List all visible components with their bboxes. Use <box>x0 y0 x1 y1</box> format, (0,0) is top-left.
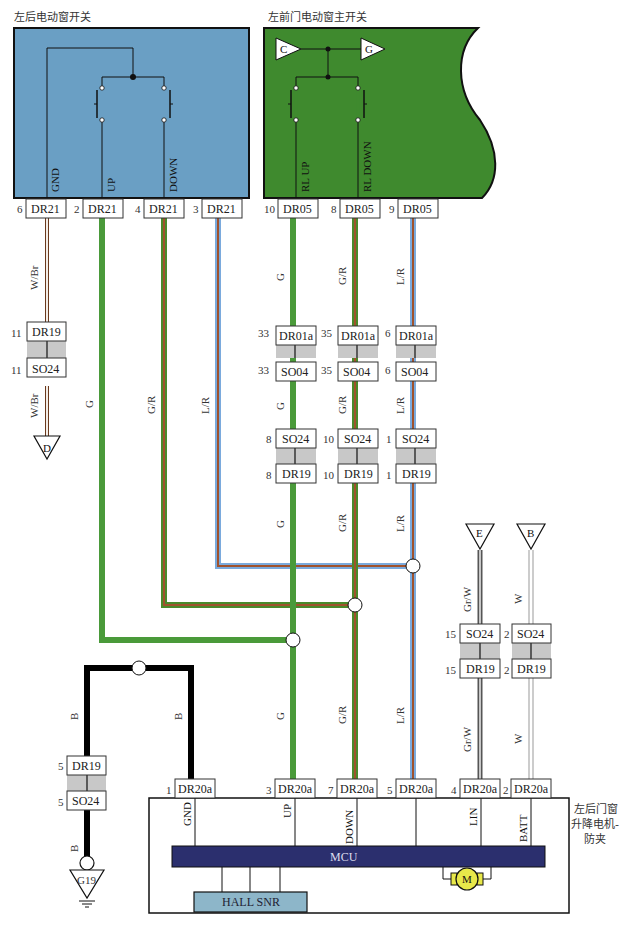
ref-d: D <box>34 436 60 459</box>
wire-lr-left <box>218 218 413 566</box>
svg-text:35: 35 <box>321 364 333 376</box>
ref-c: C <box>280 43 287 55</box>
switch-contact-icon <box>100 118 104 122</box>
svg-text:DR01a: DR01a <box>341 329 376 343</box>
svg-text:11: 11 <box>11 364 22 376</box>
svg-text:8: 8 <box>331 203 337 215</box>
svg-text:DR19: DR19 <box>466 662 495 676</box>
svg-text:DR21: DR21 <box>207 202 236 216</box>
svg-text:DR20a: DR20a <box>399 782 434 796</box>
svg-text:2: 2 <box>503 784 509 796</box>
wire-label: W <box>512 733 524 744</box>
svg-text:DR21: DR21 <box>88 202 117 216</box>
left-switch-connectors: 6 DR21 2 DR21 4 DR21 3 DR21 <box>17 199 242 218</box>
wire-label: W/Br <box>28 393 40 418</box>
signal-down: DOWN <box>343 810 355 844</box>
svg-text:35: 35 <box>321 327 333 339</box>
svg-text:SO24: SO24 <box>282 432 309 446</box>
wire-g-left-up <box>102 218 293 640</box>
splice-node-icon <box>348 598 362 612</box>
motor-module-title-2: 升降电机- <box>571 817 619 831</box>
main-switch-title: 左前门电动窗主开关 <box>268 10 367 24</box>
svg-text:SO24: SO24 <box>466 627 493 641</box>
signal-rl-down: RL DOWN <box>361 141 373 192</box>
inline-connector-e: 15 SO24 15 DR19 <box>445 624 500 678</box>
signal-rl-up: RL UP <box>299 162 311 192</box>
svg-text:3: 3 <box>193 203 199 215</box>
inline-connector-ground: 5 DR19 5 SO24 <box>58 756 106 810</box>
mcu-block <box>172 846 545 867</box>
inline-connector-so24-rlup: 8 SO24 8 DR19 <box>266 429 316 483</box>
hall-sensor-label: HALL SNR <box>222 895 280 909</box>
signal-lin: LIN <box>467 808 479 826</box>
wire-label: L/R <box>394 514 406 532</box>
svg-text:33: 33 <box>258 364 270 376</box>
mcu-label: MCU <box>330 850 358 864</box>
signal-down: DOWN <box>167 158 179 192</box>
svg-text:DR05: DR05 <box>403 202 432 216</box>
svg-text:5: 5 <box>58 796 64 808</box>
switch-contact-icon <box>162 118 166 122</box>
svg-text:SO24: SO24 <box>32 362 59 376</box>
svg-text:DR20a: DR20a <box>514 782 549 796</box>
wire-label: G/R <box>336 395 348 414</box>
svg-text:4: 4 <box>451 784 457 796</box>
ref-g: G <box>365 43 373 55</box>
svg-text:10: 10 <box>323 433 335 445</box>
svg-text:SO04: SO04 <box>343 365 370 379</box>
svg-text:10: 10 <box>323 469 335 481</box>
wire-label: G <box>274 712 286 720</box>
signal-gnd: GND <box>49 168 61 192</box>
main-switch-connectors: 10 DR05 8 DR05 9 DR05 <box>264 199 438 218</box>
wire-label: G <box>83 400 95 408</box>
svg-text:SO04: SO04 <box>401 365 428 379</box>
svg-text:DR05: DR05 <box>283 202 312 216</box>
wire-label: W <box>512 593 524 604</box>
signal-batt: BATT <box>517 814 529 842</box>
svg-text:6: 6 <box>385 364 391 376</box>
svg-text:SO24: SO24 <box>402 432 429 446</box>
inline-connector-dr01a-rldn: 35 DR01a 35 SO04 <box>321 326 378 381</box>
ref-b: B <box>517 524 545 549</box>
splice-node-icon <box>286 633 300 647</box>
wire-label: Gr/W <box>461 726 473 752</box>
signal-up: UP <box>105 178 117 192</box>
wire-label: G <box>274 273 286 281</box>
svg-text:G19: G19 <box>77 874 96 886</box>
svg-text:DR19: DR19 <box>344 467 373 481</box>
wire-label: G/R <box>336 513 348 532</box>
wire-gr-left-down <box>164 218 355 605</box>
wire-label: G/R <box>336 266 348 285</box>
wire-label: L/R <box>394 396 406 414</box>
wire-label: B <box>172 713 184 720</box>
wire-label: G <box>274 402 286 410</box>
svg-text:6: 6 <box>17 203 23 215</box>
svg-text:2: 2 <box>74 203 80 215</box>
svg-text:DR19: DR19 <box>517 662 546 676</box>
motor-label: M <box>462 873 472 885</box>
wire-label: G/R <box>336 705 348 724</box>
svg-text:7: 7 <box>328 784 334 796</box>
svg-text:DR19: DR19 <box>282 467 311 481</box>
ref-e: E <box>466 524 494 549</box>
svg-text:E: E <box>476 527 483 539</box>
svg-text:8: 8 <box>266 469 272 481</box>
svg-text:DR21: DR21 <box>149 202 178 216</box>
svg-text:DR05: DR05 <box>345 202 374 216</box>
svg-text:DR20a: DR20a <box>278 782 313 796</box>
svg-text:33: 33 <box>258 327 270 339</box>
svg-text:3: 3 <box>266 784 272 796</box>
left-switch-title: 左后电动窗开关 <box>14 10 91 24</box>
svg-text:DR19: DR19 <box>32 325 61 339</box>
svg-text:1: 1 <box>386 469 392 481</box>
svg-text:1: 1 <box>386 433 392 445</box>
motor-module-title-3: 防夹 <box>584 832 606 846</box>
inline-connector-gnd: 11 DR19 11 SO24 <box>11 322 66 377</box>
svg-text:4: 4 <box>135 203 141 215</box>
splice-node-icon <box>132 661 146 675</box>
svg-text:D: D <box>43 442 51 454</box>
svg-text:2: 2 <box>504 664 510 676</box>
svg-text:DR19: DR19 <box>72 759 101 773</box>
svg-text:9: 9 <box>389 203 395 215</box>
wire-label: L/R <box>394 706 406 724</box>
